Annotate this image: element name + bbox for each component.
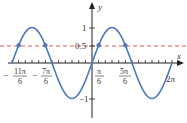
- intersection-point: [96, 43, 100, 47]
- sine-chart: y x 1 0.5 −1 − 11π 6 − 7π 6 π 6 5π 6 2π: [0, 0, 187, 123]
- x-tick-sign: −: [32, 70, 37, 80]
- x-tick-2pi: 2π: [166, 74, 176, 84]
- y-tick-minus1: −1: [79, 94, 89, 104]
- intersection-point: [16, 43, 20, 47]
- x-tick-den: 6: [97, 77, 101, 86]
- x-tick-den: 6: [18, 77, 22, 86]
- x-tick-num: 7π: [42, 67, 50, 76]
- intersection-point: [123, 43, 127, 47]
- y-axis-label: y: [97, 2, 102, 12]
- x-tick-num: 11π: [14, 67, 26, 76]
- y-tick-1: 1: [82, 23, 87, 33]
- x-tick-sign: −: [3, 70, 8, 80]
- x-axis-label: x: [176, 51, 181, 61]
- x-tick-den: 6: [123, 77, 127, 86]
- y-tick-0.5: 0.5: [75, 41, 87, 51]
- x-tick-num: 5π: [120, 67, 128, 76]
- y-axis-arrow-icon: [89, 2, 95, 9]
- x-tick-num: π: [97, 67, 101, 76]
- intersection-point: [43, 43, 47, 47]
- intersection-points: [16, 43, 127, 47]
- x-tick-den: 6: [44, 77, 48, 86]
